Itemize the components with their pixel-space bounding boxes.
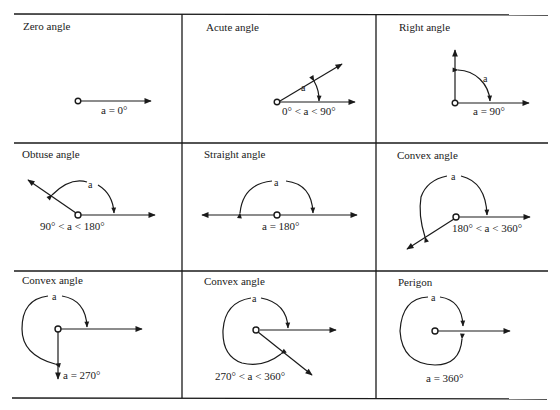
cell-title-right: Right angle	[399, 21, 450, 33]
convex-angle-diagram-1: a	[407, 171, 530, 249]
svg-text:a: a	[301, 82, 306, 93]
svg-text:a: a	[88, 179, 93, 190]
straight-angle-diagram: a	[202, 177, 357, 218]
cell-title-convex-1: Convex angle	[397, 149, 458, 161]
cell-title-acute: Acute angle	[206, 21, 259, 33]
cell-title-zero: Zero angle	[23, 20, 70, 32]
svg-text:a: a	[431, 292, 436, 303]
svg-text:a: a	[252, 293, 257, 304]
caption-right: a = 90°	[473, 105, 505, 117]
zero-angle-diagram	[75, 98, 151, 104]
caption-straight: a = 180°	[262, 220, 300, 232]
caption-perigon: a = 360°	[426, 372, 464, 384]
caption-convex-2: 270° < a < 360°	[215, 370, 285, 382]
cell-title-obtuse: Obtuse angle	[22, 148, 80, 160]
right-angle-diagram: a	[452, 50, 529, 106]
svg-text:a: a	[274, 177, 279, 188]
acute-angle-diagram: a	[274, 64, 355, 105]
cell-title-convex-270: Convex angle	[22, 274, 83, 286]
svg-text:a: a	[483, 73, 488, 84]
svg-text:a: a	[451, 171, 456, 182]
caption-convex-270: a = 270°	[63, 369, 101, 381]
caption-convex-1: 180° < a < 360°	[452, 222, 522, 234]
cell-title-convex-2: Convex angle	[204, 275, 265, 287]
convex-angle-diagram-2: a	[223, 293, 336, 375]
grid-line-bottom	[12, 398, 547, 399]
caption-zero: a = 0°	[101, 104, 128, 116]
obtuse-angle-diagram: a	[28, 179, 155, 218]
caption-acute: 0° < a < 90°	[282, 105, 336, 117]
svg-text:a: a	[52, 291, 57, 302]
grid-line-top	[14, 14, 548, 15]
perigon-diagram: a	[400, 292, 510, 365]
cell-title-straight: Straight angle	[204, 148, 265, 160]
convex-angle-diagram-270: a	[22, 291, 142, 379]
cell-title-perigon: Perigon	[398, 276, 432, 288]
table-grid: a a a a a	[0, 0, 560, 410]
caption-obtuse: 90° < a < 180°	[40, 220, 105, 232]
